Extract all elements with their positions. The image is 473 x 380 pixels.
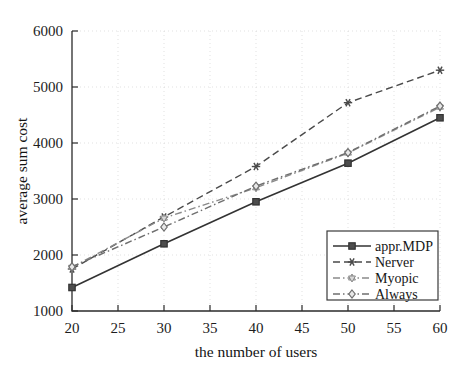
legend-label: appr.MDP — [375, 239, 433, 254]
legend-label: Nerver — [375, 255, 414, 270]
x-tick-label: 45 — [295, 320, 310, 336]
data-point-marker — [344, 99, 352, 106]
y-tick-label: 6000 — [33, 23, 63, 39]
x-tick-label: 30 — [157, 320, 172, 336]
x-axis-tick-labels: 202530354045505560 — [65, 320, 448, 336]
data-point-marker — [437, 115, 443, 121]
y-axis-title: average sum cost — [13, 117, 30, 224]
x-tick-label: 35 — [203, 320, 218, 336]
data-point-marker — [253, 199, 259, 205]
x-tick-label: 20 — [65, 320, 80, 336]
x-tick-label: 25 — [111, 320, 126, 336]
y-tick-label: 1000 — [33, 303, 63, 319]
line-chart: 100020003000400050006000 202530354045505… — [0, 0, 473, 380]
data-point-marker — [345, 160, 351, 166]
data-point-marker — [69, 284, 75, 290]
legend-label: Myopic — [375, 271, 419, 286]
x-tick-label: 50 — [341, 320, 356, 336]
data-point-marker — [161, 223, 167, 231]
legend-marker-sample — [349, 243, 355, 249]
y-tick-label: 3000 — [33, 191, 63, 207]
legend-label: Always — [375, 287, 418, 302]
x-axis-title: the number of users — [195, 343, 318, 360]
x-axis-ticks — [72, 305, 440, 311]
x-tick-label: 60 — [433, 320, 448, 336]
x-tick-label: 55 — [387, 320, 402, 336]
chart-legend[interactable]: appr.MDPNerverMyopicAlways — [327, 231, 438, 302]
y-tick-label: 4000 — [33, 135, 63, 151]
y-tick-label: 2000 — [33, 247, 63, 263]
y-tick-label: 5000 — [33, 79, 63, 95]
chart-figure: 100020003000400050006000 202530354045505… — [0, 0, 473, 380]
x-tick-label: 40 — [249, 320, 264, 336]
y-axis-tick-labels: 100020003000400050006000 — [33, 23, 63, 319]
data-point-marker — [161, 214, 168, 222]
data-point-marker — [161, 241, 167, 247]
